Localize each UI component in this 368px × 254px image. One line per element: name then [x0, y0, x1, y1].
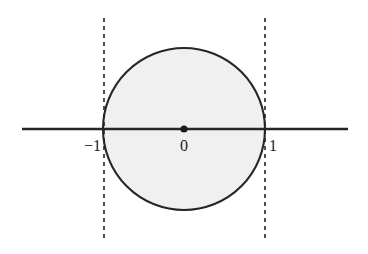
tick-label-minus-one: −1: [84, 137, 101, 154]
tick-label-one: 1: [269, 137, 277, 154]
origin-point-dot: [180, 125, 187, 132]
unit-disk-diagram: −1 0 1: [0, 0, 368, 254]
figure-canvas: −1 0 1: [0, 0, 368, 254]
tick-label-zero: 0: [180, 137, 188, 154]
